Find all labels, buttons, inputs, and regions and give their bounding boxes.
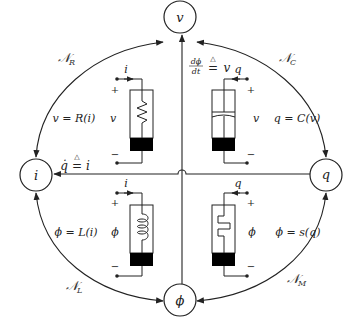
- svg-text:−: −: [111, 261, 119, 272]
- capacitor-relation: q = C(v): [274, 112, 320, 125]
- inductor-relation: ϕ = L(i): [54, 226, 97, 239]
- svg-text:=: =: [72, 159, 82, 173]
- capacitor-terminal-var: v: [253, 112, 260, 125]
- svg-text:dϕ: dϕ: [191, 57, 202, 66]
- resistor-relation: v = R(i): [53, 112, 96, 125]
- memristor-element: q + − ϕ ϕ = s(q): [212, 177, 320, 278]
- label-N-R: 𝒩 R: [58, 50, 75, 67]
- svg-text:−: −: [247, 149, 255, 160]
- node-v-label: v: [176, 10, 184, 25]
- memristor-terminal-var: ϕ: [248, 226, 256, 239]
- svg-text:=: =: [208, 61, 218, 75]
- svg-text:−: −: [111, 149, 119, 160]
- resistor-current-label: i: [124, 63, 128, 76]
- node-i-label: i: [34, 168, 38, 183]
- circuit-element-quadrangle-diagram: v i q ϕ dϕ dt △ = v q̇ △ = i 𝒩 R 𝒩: [0, 0, 359, 334]
- svg-text:+: +: [247, 84, 255, 95]
- label-N-L: 𝒩 L: [66, 278, 83, 295]
- svg-text:+: +: [111, 197, 119, 208]
- node-phi-label: ϕ: [176, 293, 185, 308]
- relation-qdot-equals-i: q̇ △ = i: [60, 153, 90, 173]
- svg-text:+: +: [247, 197, 255, 208]
- capacitor-element: q + − v q = C(v): [212, 63, 320, 165]
- svg-text:L: L: [76, 286, 82, 295]
- label-N-M: 𝒩 M: [287, 271, 307, 288]
- relation-dphi-dt-equals-v: dϕ dt △ = v: [189, 55, 231, 76]
- memristor-relation: ϕ = s(q): [276, 226, 321, 239]
- svg-text:dt: dt: [192, 67, 201, 76]
- node-i: i: [20, 159, 52, 191]
- svg-text:v: v: [224, 61, 231, 75]
- svg-text:−: −: [247, 261, 255, 272]
- inductor-terminal-var: ϕ: [111, 226, 119, 239]
- svg-text:i: i: [86, 159, 90, 173]
- node-v: v: [164, 1, 196, 33]
- memristor-current-label: q: [234, 177, 241, 190]
- svg-text:C: C: [290, 58, 296, 67]
- resistor-terminal-var: v: [110, 112, 117, 125]
- label-N-C: 𝒩 C: [279, 50, 296, 67]
- inductor-current-label: i: [124, 177, 128, 190]
- capacitor-current-label: q: [234, 63, 241, 76]
- svg-text:R: R: [68, 58, 75, 67]
- node-phi: ϕ: [164, 284, 196, 316]
- resistor-element: i + − v v = R(i): [53, 63, 153, 165]
- inductor-element: i + − ϕ ϕ = L(i): [54, 177, 153, 278]
- svg-text:q̇: q̇: [60, 159, 68, 173]
- svg-text:+: +: [111, 84, 119, 95]
- node-q-label: q: [322, 167, 330, 182]
- svg-text:M: M: [297, 279, 307, 288]
- node-q: q: [310, 159, 342, 191]
